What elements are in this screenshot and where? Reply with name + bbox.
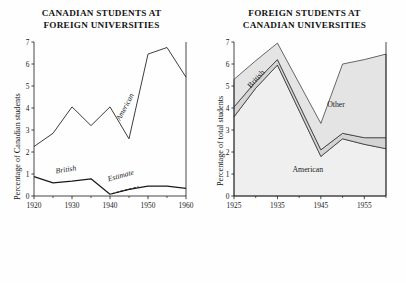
svg-text:1: 1 <box>226 170 230 179</box>
svg-text:American: American <box>292 165 323 174</box>
svg-text:6: 6 <box>26 60 30 69</box>
svg-text:2: 2 <box>26 148 30 157</box>
svg-text:5: 5 <box>26 82 30 91</box>
svg-text:1930: 1930 <box>65 201 80 210</box>
svg-text:6: 6 <box>226 60 230 69</box>
svg-text:4: 4 <box>26 104 30 113</box>
svg-text:1925: 1925 <box>227 201 242 210</box>
svg-text:1940: 1940 <box>103 201 118 210</box>
svg-text:0: 0 <box>26 192 30 201</box>
svg-text:3: 3 <box>226 126 230 135</box>
y-axis-title-right: Percentage of total students <box>216 96 225 186</box>
svg-text:2: 2 <box>226 148 230 157</box>
svg-text:5: 5 <box>226 82 230 91</box>
svg-text:1935: 1935 <box>270 201 285 210</box>
svg-text:1945: 1945 <box>313 201 328 210</box>
svg-text:1950: 1950 <box>141 201 156 210</box>
svg-text:7: 7 <box>226 38 230 47</box>
svg-text:7: 7 <box>26 38 30 47</box>
svg-text:1920: 1920 <box>27 201 42 210</box>
svg-text:4: 4 <box>226 104 230 113</box>
svg-text:1: 1 <box>26 170 30 179</box>
chart-panel-canadian-students-abroad: CANADIAN STUDENTS AT FOREIGN UNIVERSITIE… <box>0 0 203 283</box>
svg-text:3: 3 <box>26 126 30 135</box>
svg-text:1955: 1955 <box>357 201 372 210</box>
svg-text:0: 0 <box>226 192 230 201</box>
chart-panel-foreign-students-in-canada: FOREIGN STUDENTS AT CANADIAN UNIVERSITIE… <box>203 0 406 283</box>
figure-two-charts: CANADIAN STUDENTS AT FOREIGN UNIVERSITIE… <box>0 0 406 283</box>
svg-text:Other: Other <box>327 100 345 109</box>
svg-text:American: American <box>114 92 136 123</box>
svg-text:1960: 1960 <box>179 201 194 210</box>
plot-area-right: 012345671925193519451955BritishOtherAmer… <box>203 0 406 283</box>
svg-text:British: British <box>55 163 77 175</box>
plot-area-left: 0123456719201930194019501960AmericanBrit… <box>0 0 203 283</box>
svg-text:Estimate: Estimate <box>106 167 136 183</box>
